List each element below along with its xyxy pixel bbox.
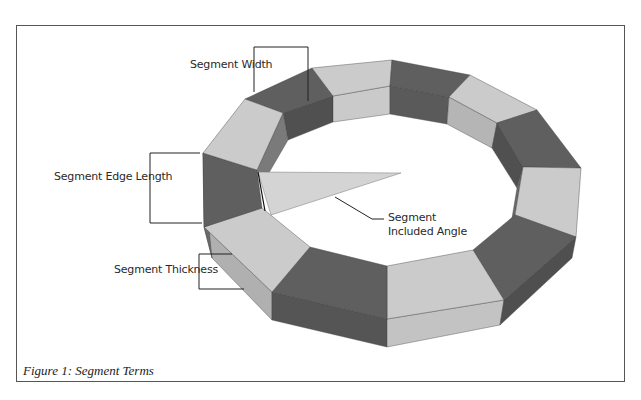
label-included-angle-2: Included Angle <box>388 225 467 238</box>
angle-leader <box>335 197 384 219</box>
label-segment-thickness: Segment Thickness <box>114 263 218 276</box>
edge-length-bracket <box>150 153 202 223</box>
label-segment-width: Segment Width <box>190 58 272 71</box>
segmented-ring-diagram <box>0 0 641 400</box>
figure-caption: Figure 1: Segment Terms <box>23 363 154 379</box>
label-included-angle-1: Segment <box>388 211 436 224</box>
included-angle-wedge <box>258 172 401 215</box>
label-segment-edge-length: Segment Edge Length <box>54 170 172 183</box>
